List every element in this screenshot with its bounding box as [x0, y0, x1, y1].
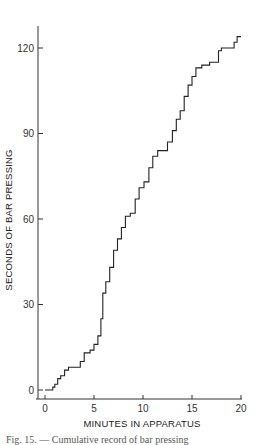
cumulative-curve [45, 37, 241, 390]
x-tick-label: 10 [137, 403, 149, 414]
x-ticks: 05101520 [42, 395, 247, 414]
y-tick-label: 120 [17, 43, 34, 54]
x-tick-label: 15 [186, 403, 198, 414]
x-tick-label: 5 [91, 403, 97, 414]
y-tick-label: 90 [23, 128, 35, 139]
x-axis-title: MINUTES IN APPARATUS [83, 418, 200, 429]
x-tick-label: 0 [42, 403, 48, 414]
y-tick-label: 30 [23, 299, 35, 310]
y-axis-title: SECONDS OF BAR PRESSING [3, 149, 14, 290]
y-tick-label: 0 [28, 385, 34, 396]
y-ticks: 0306090120 [17, 43, 43, 396]
x-tick-label: 20 [235, 403, 247, 414]
figure-caption: Fig. 15. — Cumulative record of bar pres… [6, 434, 188, 445]
y-tick-label: 60 [23, 214, 35, 225]
